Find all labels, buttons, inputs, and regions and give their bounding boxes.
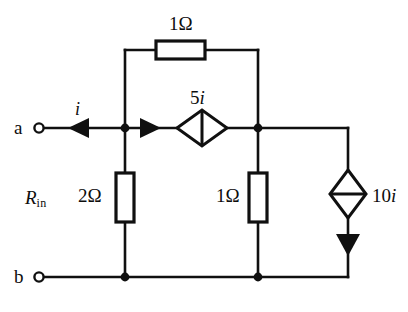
dependent-source-10i-label: 10i [372, 186, 396, 205]
resistor-top-1ohm-body [156, 41, 205, 59]
dependent-source-5i-coefficient: 5 [190, 87, 200, 108]
input-resistance-subscript: in [37, 196, 47, 210]
dependent-source-5i-variable: i [200, 87, 205, 108]
circuit-schematic-svg [0, 0, 408, 312]
input-resistance-symbol: R [25, 187, 37, 208]
resistor-left-2ohm-body [116, 173, 134, 222]
terminal-b-label: b [14, 267, 24, 286]
dependent-source-10i-coefficient: 10 [372, 185, 391, 206]
dependent-source-10i-variable: i [391, 185, 396, 206]
resistor-left-2ohm-label: 2Ω [78, 186, 102, 205]
current-direction-arrowhead-i [68, 118, 89, 138]
dependent-source-5i-arrowhead [140, 118, 161, 138]
junction-dot-right-bottom [254, 273, 263, 282]
resistor-middle-1ohm-label: 1Ω [216, 186, 240, 205]
input-resistance-label: Rin [25, 188, 47, 207]
resistor-middle-1ohm-body [249, 173, 267, 222]
terminal-a-label: a [14, 118, 22, 137]
junction-dot-left-top [121, 124, 130, 133]
terminal-b-circle [34, 272, 43, 281]
dependent-source-5i-label: 5i [190, 88, 205, 107]
junction-dot-left-bottom [121, 273, 130, 282]
circuit-diagram: 1Ω 2Ω 1Ω 5i 10i i a b Rin [0, 0, 408, 312]
dependent-source-10i-arrowhead [336, 234, 360, 256]
junction-dot-right-top [254, 124, 263, 133]
terminal-a-circle [34, 123, 43, 132]
resistor-top-1ohm-label: 1Ω [169, 14, 193, 33]
current-label-i: i [75, 100, 80, 118]
